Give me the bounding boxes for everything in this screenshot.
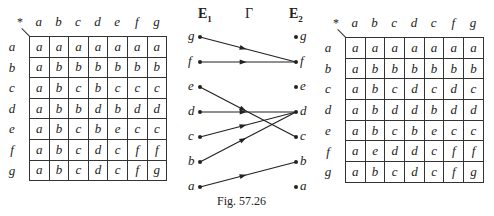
table-cell: c	[69, 139, 89, 160]
table-cell: f	[147, 139, 167, 160]
table-cell: b	[424, 100, 444, 121]
table-cell: c	[108, 78, 128, 99]
table-cell: d	[385, 141, 405, 162]
column-header: b	[49, 14, 69, 30]
table-cell: f	[127, 139, 147, 160]
table-cell: a	[108, 37, 128, 58]
table-cell: a	[147, 37, 167, 58]
table-cell: c	[127, 119, 147, 140]
table-cell: b	[88, 57, 108, 78]
table-cell: a	[346, 141, 366, 162]
row-header: c	[321, 81, 335, 97]
table-cell: e	[108, 119, 128, 140]
table-cell: b	[405, 58, 425, 79]
mapping-arrow	[200, 112, 296, 162]
table-cell: c	[69, 160, 89, 181]
table-cell: c	[424, 141, 444, 162]
codomain-node	[294, 35, 298, 39]
table-cell: a	[346, 120, 366, 141]
table-cell: b	[147, 57, 167, 78]
row-header: g	[5, 163, 19, 179]
table-cell: b	[365, 100, 385, 121]
table-row: aeddcff	[346, 141, 484, 162]
table-cell: a	[346, 162, 366, 183]
table-cell: b	[385, 58, 405, 79]
table-cell: a	[365, 38, 385, 59]
table-cell: b	[69, 57, 89, 78]
table-row: abcdcff	[30, 139, 167, 160]
table-cell: a	[88, 37, 108, 58]
table-cell: a	[30, 37, 50, 58]
table-cell: c	[424, 162, 444, 183]
table-cell: b	[49, 78, 69, 99]
row-header: f	[321, 144, 335, 160]
row-header: b	[321, 61, 335, 77]
table-cell: c	[444, 120, 464, 141]
table-cell: d	[88, 139, 108, 160]
column-header: g	[147, 14, 167, 30]
mapping-arrow	[200, 162, 296, 187]
arrowhead-icon	[239, 124, 246, 129]
column-header: f	[127, 14, 147, 30]
table-cell: a	[405, 38, 425, 59]
table-cell: a	[49, 37, 69, 58]
table-cell: a	[346, 100, 366, 121]
table-cell: a	[385, 38, 405, 59]
table-cell: f	[464, 141, 484, 162]
table-cell: b	[49, 119, 69, 140]
table-cell: c	[385, 162, 405, 183]
table-cell: b	[49, 98, 69, 119]
arrowhead-icon	[239, 138, 246, 143]
table-row: abcbecc	[30, 119, 167, 140]
table-row: abcbccc	[30, 78, 167, 99]
table-cell: d	[385, 100, 405, 121]
table-cell: a	[346, 38, 366, 59]
table-cell: b	[464, 58, 484, 79]
table-cell: a	[30, 98, 50, 119]
table-row: abbbbbb	[346, 58, 484, 79]
table-cell: b	[88, 119, 108, 140]
table-cell: d	[88, 160, 108, 181]
table-cell: c	[69, 119, 89, 140]
table-cell: c	[147, 78, 167, 99]
table-cell: a	[30, 160, 50, 181]
table-cell: b	[444, 58, 464, 79]
mapping-diagram: E1 Γ E2 gfedcbagfedcba Fig. 57.26	[170, 0, 320, 216]
table-cell: c	[147, 119, 167, 140]
table-cell: c	[108, 139, 128, 160]
table-cell: c	[127, 78, 147, 99]
table-cell: a	[444, 38, 464, 59]
table-cell: c	[385, 79, 405, 100]
column-header: c	[68, 14, 88, 30]
table-cell: b	[424, 58, 444, 79]
table-cell: g	[464, 162, 484, 183]
arrowhead-icon	[240, 60, 247, 65]
table-cell: g	[147, 160, 167, 181]
column-header: b	[365, 15, 385, 31]
table-row: abbbbbb	[30, 57, 167, 78]
table-cell: b	[49, 139, 69, 160]
column-header: d	[88, 14, 108, 30]
table-row: aaaaaaa	[30, 37, 167, 58]
table-cell: f	[444, 141, 464, 162]
figure-caption: Fig. 57.26	[217, 194, 266, 209]
arrowhead-icon	[239, 45, 246, 50]
table-row: abcbecc	[346, 120, 484, 141]
table-cell: d	[405, 79, 425, 100]
column-header: a	[345, 15, 365, 31]
column-header: c	[384, 15, 404, 31]
row-header: d	[321, 102, 335, 118]
row-header: c	[5, 80, 19, 96]
table-cell: a	[69, 37, 89, 58]
left-operation-table: * abcdefg abcdefg aaaaaaaabbbbbbabcbccca…	[0, 0, 170, 216]
table-cell: f	[444, 162, 464, 183]
row-header: f	[5, 142, 19, 158]
table-cell: a	[464, 38, 484, 59]
column-header: e	[107, 14, 127, 30]
table-row: abddbdd	[346, 100, 484, 121]
table-cell: c	[424, 79, 444, 100]
table-cell: d	[147, 98, 167, 119]
mapping-arrow	[200, 37, 296, 62]
table-row: abcdcfg	[30, 160, 167, 181]
table-cell: b	[127, 57, 147, 78]
